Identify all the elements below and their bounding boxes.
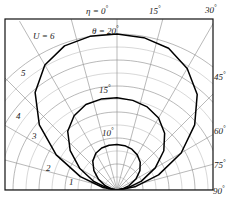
radial-tick-5: 5: [21, 68, 26, 78]
curve-label-10: 10°: [102, 126, 114, 138]
radial-tick-4: 4: [16, 111, 21, 121]
angle-label-75: 75°: [214, 158, 226, 170]
radial-tick-3: 3: [32, 131, 37, 141]
angle-label-45: 45°: [214, 70, 226, 82]
radial-tick-2: 2: [46, 163, 51, 173]
radial-tick-1: 1: [69, 177, 74, 187]
radial-max-label-u6: U = 6: [33, 31, 55, 41]
angle-label-eta-0: η = 0°: [86, 4, 108, 16]
angle-label-90: 90°: [213, 184, 225, 196]
angle-label-15: 15°: [149, 4, 161, 16]
polar-plot-figure: η = 0° 15° 30° 45° 60° 75° 90° θ = 20° U…: [0, 0, 233, 201]
curve-label-theta-20: θ = 20°: [92, 24, 119, 36]
angle-label-60: 60°: [214, 124, 226, 136]
curve-label-15: 15°: [99, 83, 111, 95]
angle-label-30: 30°: [205, 3, 217, 15]
